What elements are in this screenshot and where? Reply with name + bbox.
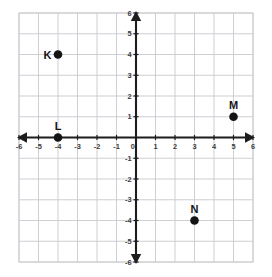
y-tick-label: -4 xyxy=(125,216,132,225)
y-tick-label: -3 xyxy=(125,195,132,204)
x-tick-label: 4 xyxy=(212,142,217,151)
x-tick-label: 3 xyxy=(192,142,196,151)
point-marker-m xyxy=(229,112,238,121)
y-tick-label: -2 xyxy=(125,175,132,184)
plotted-point-n: N xyxy=(190,203,199,225)
coordinate-plane-svg: -6-5-4-3-2-10123456 654321-1-2-3-4-5-6 K… xyxy=(0,0,272,277)
y-tick-label: -6 xyxy=(125,258,132,267)
x-tick-label: 2 xyxy=(173,142,177,151)
point-label-m: M xyxy=(229,99,238,111)
y-tick-label: 1 xyxy=(127,112,131,121)
coordinate-plane-graph: -6-5-4-3-2-10123456 654321-1-2-3-4-5-6 K… xyxy=(0,0,272,277)
point-marker-k xyxy=(54,50,63,59)
y-tick-label: 5 xyxy=(127,29,131,38)
y-tick-label: 6 xyxy=(127,9,131,18)
x-tick-label: -6 xyxy=(16,142,23,151)
y-tick-label: 2 xyxy=(127,92,131,101)
plotted-point-m: M xyxy=(229,99,238,121)
point-label-k: K xyxy=(44,49,52,61)
x-tick-label: 5 xyxy=(231,142,235,151)
axes xyxy=(17,11,255,264)
plotted-point-l: L xyxy=(54,120,63,142)
point-label-l: L xyxy=(55,120,62,132)
point-marker-n xyxy=(190,216,199,225)
y-tick-label: -5 xyxy=(125,237,132,246)
x-tick-label: 1 xyxy=(153,142,157,151)
x-tick-label: -1 xyxy=(113,142,120,151)
x-tick-label: -2 xyxy=(94,142,101,151)
point-label-n: N xyxy=(191,203,199,215)
y-tick-label: -1 xyxy=(125,154,132,163)
x-tick-label: -4 xyxy=(55,142,62,151)
x-tick-label: -3 xyxy=(74,142,81,151)
y-tick-label: 3 xyxy=(127,71,131,80)
point-marker-l xyxy=(54,133,63,142)
x-tick-label: -5 xyxy=(35,142,42,151)
x-tick-label: 0 xyxy=(131,142,135,151)
x-tick-label: 6 xyxy=(251,142,255,151)
